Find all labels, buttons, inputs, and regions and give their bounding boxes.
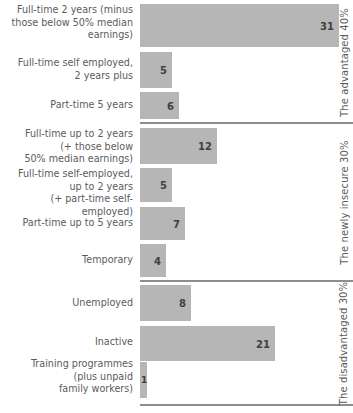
bar[interactable]: 5 (140, 168, 172, 202)
row-label: Inactive (0, 336, 133, 349)
bar-value-label: 7 (173, 218, 180, 229)
bar-container: 8 (140, 285, 191, 321)
bar[interactable]: 21 (140, 326, 275, 361)
group-separator-rule-3 (140, 404, 353, 406)
bar[interactable]: 8 (140, 285, 191, 321)
row-label: Part-time up to 5 years (0, 217, 133, 230)
bar-container: 5 (140, 168, 172, 202)
group-caption-label: The advantaged 40% (339, 8, 350, 117)
group-caption-label: The newly insecure 30% (339, 140, 350, 264)
bar-value-label: 31 (320, 20, 334, 31)
bar[interactable]: 4 (140, 244, 166, 277)
bar-value-label: 5 (160, 65, 167, 76)
bar-container: 1 (140, 362, 147, 398)
group-caption-insecure: The newly insecure 30% (335, 126, 353, 278)
bar-container: 4 (140, 244, 166, 277)
row-label: Full-time up to 2 years (+ those below 5… (0, 128, 133, 166)
bar-container: 21 (140, 326, 275, 361)
group-separator-rule-1 (140, 122, 353, 124)
bar[interactable]: 5 (140, 52, 172, 88)
bar-container: 5 (140, 52, 172, 88)
bar-container: 6 (140, 92, 179, 119)
bar[interactable]: 31 (140, 4, 339, 47)
bar-container: 12 (140, 128, 217, 164)
row-label: Full-time self employed, 2 years plus (0, 57, 133, 82)
group-caption-disadvantaged: The disadvantaged 30% (335, 284, 353, 402)
bar-container: 7 (140, 207, 185, 240)
row-label: Full-time 2 years (minus those below 50%… (0, 4, 133, 42)
row-label: Full-time self-employed, up to 2 years (… (0, 168, 133, 218)
row-label: Unemployed (0, 297, 133, 310)
group-separator-rule-2 (140, 280, 353, 282)
bar[interactable]: 7 (140, 207, 185, 240)
row-label: Training programmes (plus unpaid family … (0, 358, 133, 396)
bar-value-label: 21 (256, 338, 270, 349)
row-label: Temporary (0, 254, 133, 267)
bar[interactable]: 1 (140, 362, 147, 398)
bar-value-label: 4 (154, 255, 161, 266)
bar[interactable]: 12 (140, 128, 217, 164)
group-caption-label: The disadvantaged 30% (339, 281, 350, 404)
bar-container: 31 (140, 4, 339, 47)
bar-value-label: 1 (141, 375, 147, 385)
bar-value-label: 5 (160, 180, 167, 191)
bar[interactable]: 6 (140, 92, 179, 119)
bar-chart: The advantaged 40% The newly insecure 30… (0, 0, 353, 413)
bar-value-label: 12 (198, 141, 212, 152)
bar-value-label: 8 (179, 298, 186, 309)
row-label: Part-time 5 years (0, 99, 133, 112)
bar-value-label: 6 (167, 100, 174, 111)
